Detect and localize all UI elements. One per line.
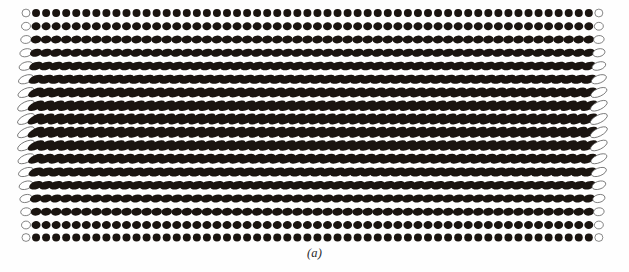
molecule bbox=[222, 221, 232, 229]
molecule bbox=[82, 9, 90, 17]
molecule bbox=[343, 221, 353, 229]
molecule bbox=[474, 234, 482, 242]
boundary-molecule bbox=[595, 234, 603, 242]
molecule bbox=[565, 9, 573, 17]
molecule bbox=[544, 22, 554, 30]
molecule bbox=[384, 9, 392, 17]
molecule bbox=[432, 207, 444, 216]
liquid-crystal-lattice bbox=[0, 0, 629, 245]
molecule bbox=[131, 35, 143, 44]
molecule bbox=[242, 22, 252, 30]
molecule bbox=[543, 35, 555, 44]
molecule bbox=[494, 22, 504, 30]
figure-container: (a) bbox=[0, 0, 629, 272]
molecule bbox=[504, 9, 512, 17]
molecule bbox=[353, 221, 363, 229]
molecule bbox=[252, 221, 262, 229]
molecule bbox=[92, 234, 100, 242]
molecule bbox=[514, 9, 522, 17]
molecule bbox=[41, 22, 51, 30]
molecule bbox=[152, 22, 162, 30]
molecule bbox=[342, 207, 354, 216]
molecule bbox=[464, 234, 472, 242]
molecule bbox=[312, 207, 324, 216]
molecule bbox=[412, 207, 424, 216]
molecule bbox=[163, 9, 171, 17]
molecule bbox=[423, 22, 433, 30]
molecule bbox=[374, 234, 382, 242]
molecule bbox=[261, 35, 273, 44]
molecule bbox=[484, 9, 492, 17]
molecule bbox=[444, 9, 452, 17]
molecule bbox=[293, 221, 303, 229]
molecule bbox=[283, 22, 293, 30]
molecule bbox=[525, 9, 533, 17]
molecule bbox=[121, 207, 133, 216]
molecule bbox=[535, 234, 543, 242]
molecule bbox=[334, 9, 342, 17]
molecule bbox=[364, 234, 372, 242]
molecule bbox=[575, 234, 583, 242]
molecule bbox=[92, 221, 102, 229]
molecule bbox=[383, 221, 393, 229]
molecule bbox=[493, 35, 505, 44]
molecule bbox=[454, 9, 462, 17]
molecule bbox=[482, 207, 494, 216]
molecule bbox=[313, 22, 323, 30]
molecule bbox=[442, 207, 454, 216]
molecule bbox=[272, 221, 282, 229]
molecule bbox=[80, 207, 92, 216]
boundary-molecule bbox=[589, 98, 609, 113]
molecule bbox=[51, 22, 61, 30]
boundary-molecule bbox=[592, 47, 606, 58]
molecule bbox=[353, 22, 363, 30]
molecule bbox=[344, 9, 352, 17]
boundary-molecule bbox=[589, 111, 609, 126]
molecule bbox=[183, 9, 191, 17]
boundary-molecule bbox=[20, 35, 32, 44]
molecule bbox=[424, 9, 432, 17]
molecule bbox=[111, 35, 123, 44]
molecule bbox=[434, 234, 442, 242]
molecule bbox=[71, 22, 81, 30]
molecule bbox=[453, 221, 463, 229]
molecule bbox=[292, 207, 304, 216]
molecule bbox=[151, 35, 163, 44]
molecule bbox=[102, 221, 112, 229]
molecule bbox=[141, 207, 153, 216]
molecule bbox=[324, 9, 332, 17]
molecule bbox=[362, 207, 374, 216]
molecule bbox=[80, 35, 92, 44]
molecule bbox=[525, 234, 533, 242]
molecule bbox=[172, 22, 182, 30]
molecule bbox=[484, 234, 492, 242]
molecule bbox=[51, 221, 61, 229]
molecule bbox=[112, 221, 122, 229]
molecule bbox=[251, 35, 263, 44]
molecule bbox=[373, 221, 383, 229]
molecule bbox=[40, 35, 52, 44]
molecule bbox=[50, 207, 62, 216]
molecule bbox=[394, 234, 402, 242]
boundary-molecule bbox=[592, 193, 606, 204]
molecule bbox=[303, 234, 311, 242]
molecule bbox=[443, 22, 453, 30]
molecule bbox=[514, 221, 524, 229]
molecule bbox=[32, 9, 40, 17]
molecule bbox=[201, 35, 213, 44]
molecule bbox=[201, 207, 213, 216]
molecule bbox=[173, 9, 181, 17]
boundary-molecule bbox=[593, 35, 605, 44]
molecule bbox=[473, 22, 483, 30]
molecule bbox=[213, 234, 221, 242]
molecule bbox=[132, 221, 142, 229]
boundary-molecule bbox=[591, 179, 607, 191]
molecule bbox=[263, 9, 271, 17]
molecule bbox=[243, 234, 251, 242]
molecule bbox=[303, 9, 311, 17]
molecule bbox=[344, 234, 352, 242]
molecule bbox=[494, 221, 504, 229]
molecule bbox=[293, 22, 303, 30]
molecule bbox=[383, 22, 393, 30]
molecule bbox=[454, 234, 462, 242]
